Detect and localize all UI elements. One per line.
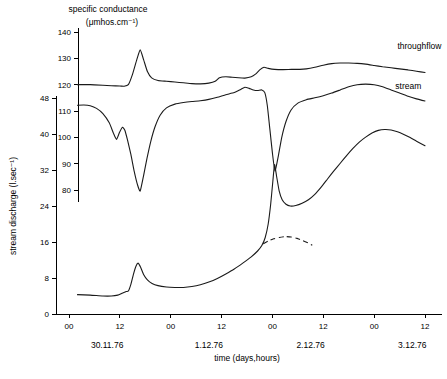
series-curve-throughflow bbox=[77, 50, 425, 86]
time-tick-label-3: 12 bbox=[217, 322, 226, 331]
x-axis-title: time (days,hours) bbox=[214, 353, 280, 363]
time-tick-label-1: 12 bbox=[115, 322, 124, 331]
discharge-tick-label-2: 16 bbox=[40, 238, 49, 247]
conductance-tick-label-3: 110 bbox=[58, 107, 71, 116]
time-tick-label-4: 00 bbox=[268, 322, 277, 331]
conductance-tick-label-6: 140 bbox=[58, 28, 72, 37]
date-label-3: 3.12.76 bbox=[398, 340, 427, 350]
discharge-tick-label-3: 24 bbox=[40, 202, 49, 211]
discharge-axis-group: 081624324048 bbox=[40, 94, 56, 319]
series-curve-stream-discharge-projected bbox=[263, 237, 312, 246]
chart-title-group: specific conductance(μmhos.cm⁻¹) bbox=[69, 4, 148, 27]
y-axis-title: stream discharge (l.sec⁻¹) bbox=[8, 157, 18, 255]
date-label-2: 2.12.76 bbox=[296, 340, 325, 350]
conductance-tick-label-4: 120 bbox=[58, 81, 72, 90]
conductance-axis-group: 8090100110120130140 bbox=[58, 28, 78, 195]
date-label-1: 1.12.76 bbox=[195, 340, 224, 350]
series-group bbox=[77, 50, 425, 296]
conductance-tick-label-2: 100 bbox=[58, 133, 72, 142]
time-tick-label-2: 00 bbox=[166, 322, 175, 331]
time-axis-group: 001200120012001230.11.761.12.762.12.763.… bbox=[65, 314, 430, 350]
date-label-0: 30.11.76 bbox=[91, 340, 124, 350]
series-labels-group: throughflowstream bbox=[395, 41, 442, 90]
hydrograph-plot: specific conductance(μmhos.cm⁻¹) 0816243… bbox=[0, 0, 447, 379]
discharge-tick-label-4: 32 bbox=[40, 166, 49, 175]
series-curve-stream-discharge bbox=[77, 129, 425, 296]
conductance-tick-label-0: 80 bbox=[62, 186, 71, 195]
discharge-tick-label-0: 0 bbox=[45, 310, 50, 319]
series-label-throughflow: throughflow bbox=[397, 41, 442, 51]
series-label-stream: stream bbox=[395, 81, 421, 91]
discharge-tick-label-6: 48 bbox=[40, 94, 49, 103]
conductance-tick-label-1: 90 bbox=[62, 160, 71, 169]
time-tick-label-7: 12 bbox=[421, 322, 430, 331]
axis-titles-group: stream discharge (l.sec⁻¹)time (days,hou… bbox=[8, 157, 280, 363]
conductance-tick-label-5: 130 bbox=[58, 54, 72, 63]
chart-title-line2: (μmhos.cm⁻¹) bbox=[86, 17, 139, 27]
series-curve-stream bbox=[77, 84, 425, 191]
time-tick-label-0: 00 bbox=[65, 322, 74, 331]
time-tick-label-5: 12 bbox=[319, 322, 328, 331]
discharge-tick-label-1: 8 bbox=[45, 274, 50, 283]
chart-title-line1: specific conductance bbox=[69, 4, 148, 14]
axes-group bbox=[56, 28, 442, 314]
discharge-tick-label-5: 40 bbox=[40, 130, 49, 139]
chart-figure: specific conductance(μmhos.cm⁻¹) 0816243… bbox=[0, 0, 447, 379]
time-tick-label-6: 00 bbox=[370, 322, 379, 331]
